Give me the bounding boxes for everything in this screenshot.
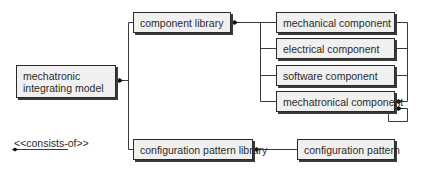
legend-consists-of: <<consists-of>> [14, 137, 89, 149]
node-label-line-1: mechatronic [23, 70, 80, 82]
node-label: configuration pattern library [140, 144, 267, 156]
node-label-line-2: integrating model [23, 82, 104, 94]
node-software-component: software component [276, 65, 395, 86]
node-component-library: component library [133, 12, 231, 33]
node-mechanical-component: mechanical component [276, 12, 395, 33]
node-label: mechanical component [283, 17, 391, 29]
node-mechatronic-integrating-model: mechatronic integrating model [16, 65, 116, 98]
node-label: electrical component [283, 43, 379, 55]
node-label: configuration pattern [304, 144, 400, 156]
node-label: mechatronical component [283, 96, 403, 108]
node-electrical-component: electrical component [276, 38, 395, 59]
node-label: software component [283, 70, 378, 82]
node-label: component library [140, 17, 223, 29]
node-mechatronical-component: mechatronical component [276, 91, 395, 112]
diagram-canvas: mechatronic integrating model component … [0, 0, 422, 169]
node-configuration-pattern-library: configuration pattern library [133, 139, 253, 160]
node-configuration-pattern: configuration pattern [297, 139, 395, 160]
legend-label: <<consists-of>> [14, 137, 89, 149]
